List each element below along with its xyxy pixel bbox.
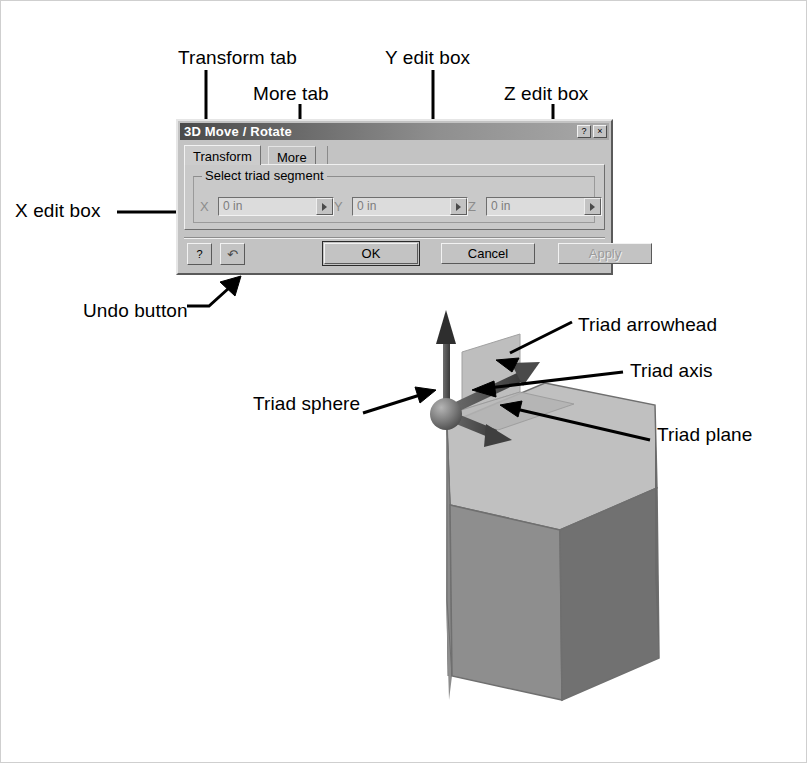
image-border [0, 0, 807, 763]
screenshot-canvas: Transform tab More tab Y edit box Z edit… [0, 0, 807, 763]
tab-transform[interactable]: Transform [184, 145, 261, 165]
